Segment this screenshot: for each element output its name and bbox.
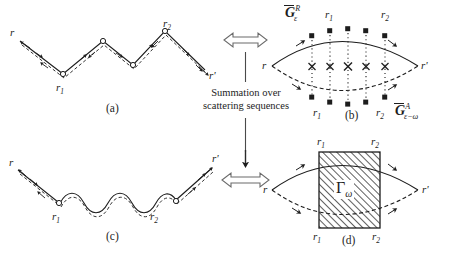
panel-b-top-label-r1: r1 <box>325 9 333 23</box>
scatterer-node <box>100 38 105 43</box>
panel-d-vertex-label: Γω <box>334 180 354 199</box>
panel-d-bottom-label-r1: r1 <box>313 231 321 245</box>
panel-d-caption: (d) <box>342 235 355 247</box>
center-annotation-line2: scattering sequences <box>186 99 306 112</box>
scatterer-node <box>173 198 178 203</box>
panel-c-caption: (c) <box>106 231 119 243</box>
panel-a-caption: (a) <box>106 103 119 115</box>
panel-b-bottom-label-r2: r2 <box>376 107 384 121</box>
panel-b-start-label: r <box>262 60 266 71</box>
scatterer-node <box>56 200 61 205</box>
figure-vector-layer <box>0 0 467 256</box>
panel-a-scatterer-r1: r1 <box>56 82 64 96</box>
panel-b-bottom-label-r1: r1 <box>313 107 321 121</box>
panel-b-caption: (b) <box>345 110 358 122</box>
figure-canvas: r r' r1 r2 (a) GRε GAε−ω r1 r2 r1 r2 r r… <box>0 0 467 256</box>
panel-d-top-label-r2: r2 <box>371 136 379 150</box>
panel-c-end-label: r' <box>212 153 219 164</box>
panel-b-end-label: r' <box>421 60 428 71</box>
panel-a-scatterer-r2: r2 <box>163 18 171 32</box>
panel-d-bottom-label-r2: r2 <box>372 231 380 245</box>
panel-b-top-label-r2: r2 <box>381 9 389 23</box>
panel-b-top-propagator-label: GRε <box>285 5 297 23</box>
scatterer-node <box>60 71 65 76</box>
panel-c-trajectory <box>18 168 213 217</box>
panel-c-scatterer-r2: r2 <box>150 211 158 225</box>
panel-a-trajectory <box>20 28 208 78</box>
panel-a-start-label: r <box>10 27 14 38</box>
scatterer-node <box>130 62 135 67</box>
panel-d-top-label-r1: r1 <box>317 136 325 150</box>
panel-a-end-label: r' <box>209 70 216 81</box>
panel-d-start-label: r <box>263 184 267 195</box>
panel-d-end-label: r' <box>422 184 429 195</box>
panel-b-bottom-propagator-label: GAε−ω <box>395 103 418 121</box>
panel-c-start-label: r <box>9 157 13 168</box>
panel-c-scatterer-r1: r1 <box>52 211 60 225</box>
center-annotation: Summation over scattering sequences <box>186 86 306 112</box>
center-annotation-line1: Summation over <box>186 86 306 99</box>
